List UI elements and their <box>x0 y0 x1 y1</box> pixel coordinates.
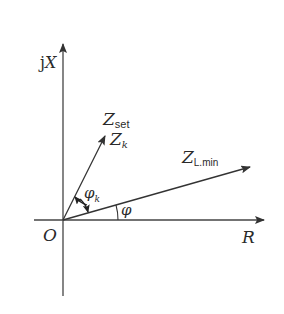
impedance-diagram: jX Zset Zk ZL.min φk φ O R <box>0 0 284 314</box>
origin-label: O <box>43 225 57 245</box>
z-k-label: Zk <box>109 129 128 150</box>
phi-label: φ <box>121 201 132 219</box>
jx-axis-label: jX <box>38 53 57 72</box>
phi-arc <box>116 205 118 220</box>
phi-k-label: φk <box>84 184 100 204</box>
r-axis-label: R <box>241 227 255 247</box>
z-set-vector <box>63 136 105 220</box>
z-l-min-label: ZL.min <box>181 147 218 168</box>
z-set-label: Zset <box>102 109 130 130</box>
